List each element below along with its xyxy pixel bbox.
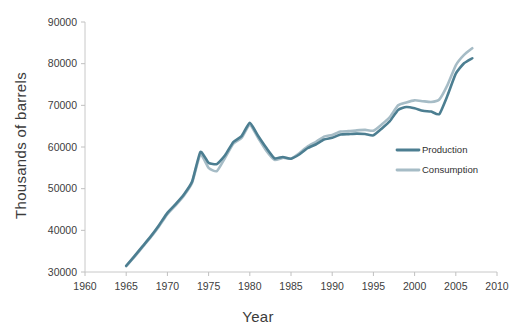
x-tick-label: 1980: [238, 280, 262, 292]
y-tick-label: 30000: [48, 266, 77, 278]
line-chart-svg: 30000400005000060000700008000090000 1960…: [0, 0, 516, 336]
x-tick-label: 1965: [115, 280, 139, 292]
x-tick-labels: 1960196519701975198019851990199520002005…: [73, 280, 509, 292]
chart-figure: 30000400005000060000700008000090000 1960…: [0, 0, 516, 336]
chart-canvas: 30000400005000060000700008000090000 1960…: [0, 0, 516, 336]
x-tick-label: 1970: [156, 280, 180, 292]
x-tick-label: 2000: [403, 280, 427, 292]
data-series-group: [126, 48, 472, 266]
legend-label-consumption: Consumption: [422, 164, 478, 175]
y-tick-label: 80000: [48, 57, 77, 69]
y-tick-label: 90000: [48, 16, 77, 28]
y-tick-label: 70000: [48, 99, 77, 111]
x-axis-title: Year: [0, 308, 516, 325]
y-tick-labels: 30000400005000060000700008000090000: [48, 16, 77, 278]
x-tick-label: 2005: [444, 280, 468, 292]
y-tick-label: 60000: [48, 141, 77, 153]
x-tick-label: 1995: [362, 280, 386, 292]
legend-label-production: Production: [422, 144, 467, 155]
chart-legend: ProductionConsumption: [397, 144, 478, 175]
x-tick-label: 1990: [321, 280, 345, 292]
x-tick-label: 2010: [485, 280, 509, 292]
y-tick-label: 40000: [48, 224, 77, 236]
x-tick-label: 1975: [197, 280, 221, 292]
y-tick-label: 50000: [48, 182, 77, 194]
series-line-consumption: [126, 48, 472, 266]
x-tick-label: 1960: [73, 280, 97, 292]
x-tick-label: 1985: [279, 280, 303, 292]
series-line-production: [126, 58, 472, 266]
